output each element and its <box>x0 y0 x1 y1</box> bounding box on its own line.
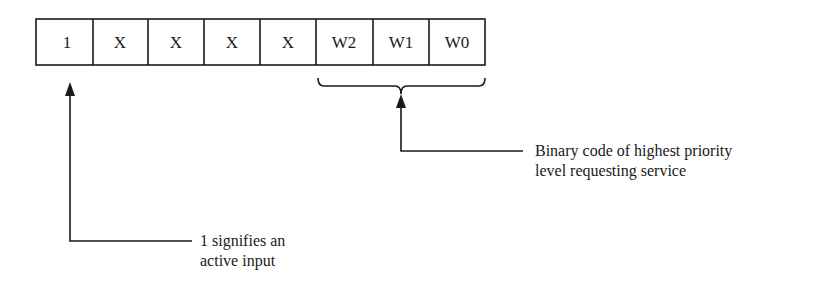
arrowhead-icon <box>396 94 406 108</box>
register-cell-2: X <box>170 33 182 52</box>
register-cell-1: X <box>114 33 126 52</box>
brace <box>318 78 485 94</box>
register-cell-7: W0 <box>445 33 470 52</box>
arrowhead-icon <box>65 82 75 96</box>
active-input-line1: 1 signifies an <box>200 231 285 251</box>
priority-code-line2: level requesting service <box>535 161 732 181</box>
register-cell-5: W2 <box>332 33 357 52</box>
register-cell-3: X <box>226 33 238 52</box>
register-cell-0: 1 <box>63 33 72 52</box>
register-cell-4: X <box>282 33 294 52</box>
active-input-arrow <box>70 94 192 241</box>
priority-code-label: Binary code of highest priority level re… <box>535 141 732 181</box>
register-cell-6: W1 <box>389 33 414 52</box>
register-cells: 1 X X X X W2 W1 W0 <box>63 33 470 52</box>
active-input-label: 1 signifies an active input <box>200 231 285 271</box>
priority-code-line1: Binary code of highest priority <box>535 141 732 161</box>
register-box <box>36 19 485 65</box>
priority-arrow <box>401 106 523 151</box>
active-input-line2: active input <box>200 251 285 271</box>
